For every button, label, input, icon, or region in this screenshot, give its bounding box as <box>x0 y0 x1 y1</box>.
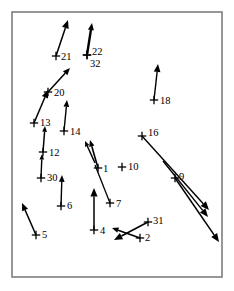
point-label-6: 6 <box>67 200 72 211</box>
point-label-14: 14 <box>70 126 81 137</box>
point-label-22: 22 <box>92 46 103 57</box>
point-label-13: 13 <box>40 117 51 128</box>
point-label-5: 5 <box>42 229 47 240</box>
point-label-12: 12 <box>49 147 60 158</box>
scatter-vector-plot: 2122322018131416121013096745312 <box>0 0 234 291</box>
point-label-9: 9 <box>179 171 184 182</box>
point-label-1: 1 <box>103 163 108 174</box>
point-label-10: 10 <box>128 161 139 172</box>
figure-root: 2122322018131416121013096745312 <box>0 0 234 291</box>
point-label-4: 4 <box>100 225 106 236</box>
point-label-31: 31 <box>153 215 164 226</box>
point-label-16: 16 <box>148 127 159 138</box>
point-label-32: 32 <box>90 58 101 69</box>
point-label-30: 30 <box>47 172 58 183</box>
point-label-2: 2 <box>145 232 150 243</box>
point-label-21: 21 <box>61 51 72 62</box>
point-label-7: 7 <box>116 198 121 209</box>
point-label-18: 18 <box>160 95 171 106</box>
point-label-20: 20 <box>54 87 65 98</box>
